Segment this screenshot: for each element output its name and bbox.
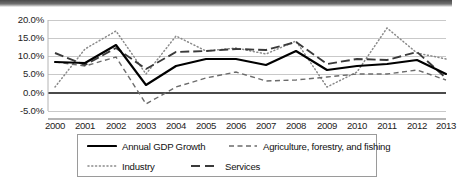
y-tick-label: 10.0% [0, 51, 44, 61]
x-tick-label: 2012 [402, 120, 432, 131]
legend-label: Services [225, 161, 260, 172]
chart-legend: Annual GDP Growth Agriculture, forestry,… [77, 134, 377, 177]
dashed-line-key-icon [228, 141, 258, 151]
x-tick-label: 2001 [70, 120, 100, 131]
scan-artifact-band [0, 0, 452, 7]
y-tick-label: 20.0% [0, 15, 44, 25]
gridlines [48, 20, 446, 111]
legend-row-2: Industry Services [78, 156, 376, 176]
x-tick-label: 2013 [431, 120, 461, 131]
x-tick-label: 2007 [251, 120, 281, 131]
x-tick-label: 2008 [281, 120, 311, 131]
y-tick-label: 0.0% [0, 88, 44, 98]
y-tick-label: 15.0% [0, 33, 44, 43]
plot-canvas [0, 8, 452, 134]
x-tick-label: 2002 [101, 120, 131, 131]
legend-label: Industry [122, 161, 155, 172]
x-tick-label: 2009 [312, 120, 342, 131]
y-tick-label: 5.0% [0, 69, 44, 79]
x-tick-label: 2006 [221, 120, 251, 131]
solid-line-key-icon [87, 141, 117, 151]
dotted-line-key-icon [87, 161, 117, 171]
legend-item-annual-gdp-growth: Annual GDP Growth [87, 141, 205, 152]
legend-item-industry: Industry [87, 161, 155, 172]
legend-label: Annual GDP Growth [122, 141, 205, 152]
x-tick-label: 2003 [131, 120, 161, 131]
x-tick-label: 2000 [40, 120, 70, 131]
legend-item-agriculture-forestry-fishing: Agriculture, forestry, and fishing [228, 141, 390, 152]
x-tick-label: 2005 [191, 120, 221, 131]
x-tick-label: 2004 [161, 120, 191, 131]
x-tick-label: 2011 [372, 120, 402, 131]
legend-row-1: Annual GDP Growth Agriculture, forestry,… [78, 136, 376, 156]
plot-area: 20.0% 15.0% 10.0% 5.0% 0.0% -5.0% 2000 2… [0, 8, 452, 134]
legend-item-services: Services [190, 161, 260, 172]
longdash-line-key-icon [190, 161, 220, 171]
legend-label: Agriculture, forestry, and fishing [263, 141, 390, 152]
x-tick-label: 2010 [342, 120, 372, 131]
y-tick-label: -5.0% [0, 106, 44, 116]
